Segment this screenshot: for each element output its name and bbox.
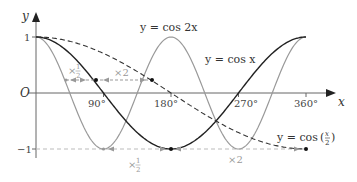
svg-text:x: x [325,130,329,138]
annotation-half-bottom: × 1 2 [128,157,141,174]
arrowhead-icon [80,78,86,83]
point-cos-half-x-min [304,147,308,151]
y-axis-arrow-icon [32,12,40,22]
svg-text:2: 2 [76,72,80,80]
label-cos-2x: y = cos 2x [139,21,198,34]
svg-text:1: 1 [76,63,80,71]
arrowhead-icon [175,147,181,152]
x-tick-360: 360° [294,98,318,109]
annotation-half-top: × 1 2 [68,63,81,80]
point-cos-2x-upper [64,78,67,81]
trig-stretch-diagram: y x O 1 −1 90° 180° 270° 360° y = cos 2x… [0,0,357,182]
point-cos-2x-min [102,147,105,150]
label-cos-half-x: y = cos ( x 2 ) [276,130,335,147]
label-cos-x: y = cos x [204,53,256,66]
svg-text:): ) [331,131,335,144]
point-cos-half-x-upper [150,78,154,82]
origin-label: O [20,86,30,100]
point-cos-x-upper [94,78,98,82]
svg-text:2: 2 [325,139,329,147]
annotation-two-bottom: ×2 [228,154,243,165]
svg-text:1: 1 [136,157,140,165]
x-axis-label: x [338,95,345,109]
arrowhead-icon [294,147,300,152]
arrowhead-icon [160,147,166,152]
x-axis-arrow-icon [326,89,336,97]
x-tick-180: 180° [154,98,178,109]
y-tick-1: 1 [24,32,30,43]
y-tick-minus-1: −1 [17,144,32,155]
svg-text:(: ( [320,131,324,144]
svg-text:2: 2 [136,166,140,174]
x-tick-90: 90° [88,98,106,109]
point-cos-x-min [169,147,173,151]
annotation-two-top: ×2 [114,67,129,78]
x-tick-270: 270° [234,98,258,109]
y-axis-label: y [21,9,29,23]
svg-text:y = cos: y = cos [276,131,318,144]
arrowhead-icon [103,78,109,83]
